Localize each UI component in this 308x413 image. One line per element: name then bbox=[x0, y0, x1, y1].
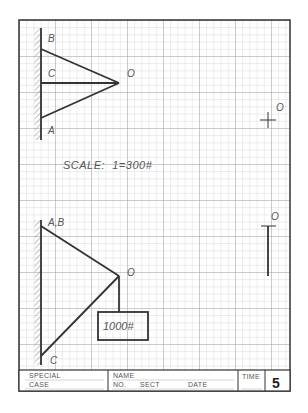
label-AB: A,B bbox=[47, 217, 64, 228]
graph-grid bbox=[19, 20, 290, 370]
title-special: SPECIAL bbox=[29, 372, 61, 379]
title-name: NAME bbox=[113, 372, 134, 379]
title-case: CASE bbox=[29, 381, 49, 388]
sheet-number: 5 bbox=[272, 375, 280, 391]
wall-hatch-lower bbox=[35, 220, 41, 365]
wall-hatch-upper bbox=[35, 28, 41, 140]
load-label: 1000# bbox=[103, 320, 134, 332]
label-O-vector: O bbox=[271, 211, 279, 222]
title-date: DATE bbox=[188, 381, 207, 388]
label-C: C bbox=[48, 68, 56, 79]
title-no: NO. bbox=[113, 381, 126, 388]
worksheet: B C O A O O SCALE: 1=300# 1000# A,B O C bbox=[0, 0, 308, 413]
title-time: TIME bbox=[242, 373, 260, 380]
label-C-lower: C bbox=[50, 355, 58, 366]
label-A: A bbox=[47, 125, 55, 136]
label-O-cross: O bbox=[276, 102, 284, 113]
title-block: SPECIAL CASE NAME NO. SECT DATE TIME 5 bbox=[19, 370, 290, 391]
title-sect: SECT bbox=[140, 381, 160, 388]
label-O-upper: O bbox=[127, 68, 135, 79]
label-B: B bbox=[48, 33, 55, 44]
scale-text: SCALE: 1=300# bbox=[63, 159, 153, 171]
label-O-lower: O bbox=[127, 267, 135, 278]
